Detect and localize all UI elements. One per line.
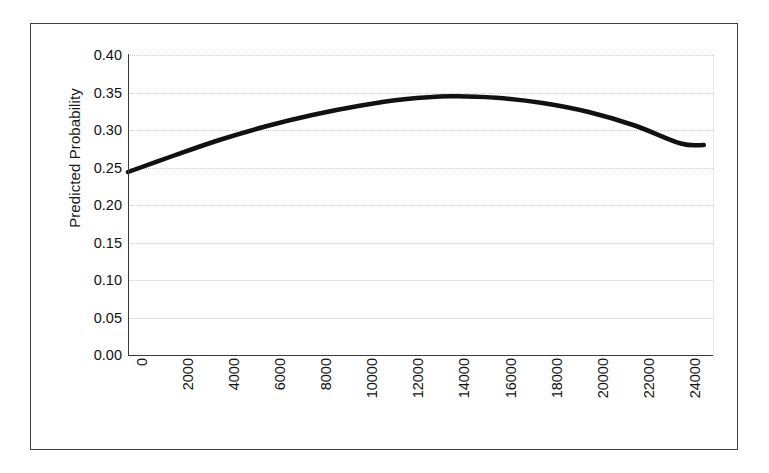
x-tick-label-text: 2000 bbox=[180, 358, 196, 390]
x-tick-label: 14000 bbox=[456, 358, 472, 398]
plot-right-edge bbox=[713, 54, 714, 356]
y-tick-label: 0.25 bbox=[74, 160, 122, 176]
y-axis-line bbox=[128, 54, 129, 356]
x-tick-label: 24000 bbox=[687, 358, 703, 398]
x-tick-label: 16000 bbox=[503, 358, 519, 398]
x-tick-label-text: 20000 bbox=[595, 358, 611, 398]
x-tick-label: 18000 bbox=[549, 358, 565, 398]
x-tick-label-text: 6000 bbox=[272, 358, 288, 390]
x-tick-label: 0 bbox=[134, 358, 150, 366]
x-tick-label-text: 12000 bbox=[410, 358, 426, 398]
y-tick-label: 0.35 bbox=[74, 85, 122, 101]
x-axis-tick-labels: 0200040006000800010000120001400016000180… bbox=[128, 358, 713, 450]
x-tick-label-text: 16000 bbox=[503, 358, 519, 398]
x-tick-label-text: 4000 bbox=[226, 358, 242, 390]
y-tick-label: 0.20 bbox=[74, 197, 122, 213]
y-tick-label: 0.00 bbox=[74, 347, 122, 363]
x-tick-label: 6000 bbox=[272, 358, 288, 390]
plot-area bbox=[128, 55, 713, 355]
x-tick-label-text: 18000 bbox=[549, 358, 565, 398]
x-tick-label-text: 14000 bbox=[456, 358, 472, 398]
x-tick-label: 20000 bbox=[595, 358, 611, 398]
series-line-predicted-probability bbox=[128, 55, 713, 355]
y-tick-label: 0.40 bbox=[74, 47, 122, 63]
x-tick-label-text: 0 bbox=[134, 358, 150, 366]
x-tick-label: 4000 bbox=[226, 358, 242, 390]
y-axis-tick-labels: 0.400.350.300.250.200.150.100.050.00 bbox=[74, 55, 122, 355]
x-tick-label: 12000 bbox=[410, 358, 426, 398]
y-tick-label: 0.15 bbox=[74, 235, 122, 251]
y-tick-label: 0.10 bbox=[74, 272, 122, 288]
x-axis-line bbox=[128, 355, 714, 356]
x-tick-label-text: 8000 bbox=[318, 358, 334, 390]
x-tick-label: 10000 bbox=[364, 358, 380, 398]
x-tick-label: 8000 bbox=[318, 358, 334, 390]
x-tick-label: 2000 bbox=[180, 358, 196, 390]
x-tick-label-text: 10000 bbox=[364, 358, 380, 398]
y-tick-label: 0.05 bbox=[74, 310, 122, 326]
y-tick-label: 0.30 bbox=[74, 122, 122, 138]
x-tick-label-text: 24000 bbox=[687, 358, 703, 398]
chart-figure: Predicted Probability 0.400.350.300.250.… bbox=[0, 0, 769, 473]
x-tick-label: 22000 bbox=[641, 358, 657, 398]
x-tick-label-text: 22000 bbox=[641, 358, 657, 398]
